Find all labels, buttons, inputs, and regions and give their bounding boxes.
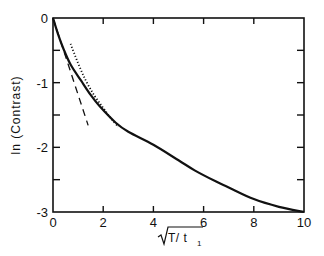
series-dotted-line — [71, 44, 119, 127]
y-tick-labels: 0-1-2-3 — [36, 11, 48, 220]
x-tick-label: 6 — [200, 215, 207, 230]
chart: 0246810 0-1-2-3 ln (Contrast) T/ t 1 — [0, 0, 324, 256]
y-tick-label: 0 — [41, 11, 48, 26]
y-axis-label: ln (Contrast) — [9, 75, 23, 154]
x-axis-label-main: T/ t — [168, 231, 187, 245]
axis-ticks — [53, 18, 304, 212]
data-series — [53, 18, 304, 212]
y-tick-label: -1 — [36, 76, 48, 91]
x-tick-label: 4 — [150, 215, 157, 230]
y-tick-label: -2 — [36, 140, 48, 155]
x-tick-label: 2 — [100, 215, 107, 230]
plot-frame — [53, 18, 304, 212]
series-dashed-line — [53, 18, 88, 125]
series-solid-line — [53, 18, 304, 212]
x-axis-label-subscript: 1 — [197, 239, 202, 248]
y-tick-label: -3 — [36, 205, 48, 220]
x-tick-label: 8 — [250, 215, 257, 230]
x-axis-label: T/ t 1 — [158, 227, 203, 248]
x-tick-label: 0 — [49, 215, 56, 230]
x-tick-label: 10 — [297, 215, 311, 230]
x-tick-labels: 0246810 — [49, 215, 311, 230]
